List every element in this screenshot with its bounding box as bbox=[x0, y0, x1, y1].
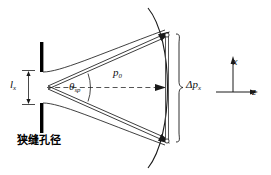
physics-diagram-beam-divergence: lx θsp p0 Δpx x z 狭缝孔径 bbox=[0, 0, 271, 175]
slit-width-dimension-arrow bbox=[22, 71, 35, 105]
slit-bar-bottom bbox=[40, 103, 43, 133]
longitudinal-momentum-label: p0 bbox=[113, 67, 122, 78]
slit-width-label: lx bbox=[10, 79, 16, 90]
diagram-canvas bbox=[0, 0, 271, 175]
beam-envelope-upper-curve bbox=[43, 30, 165, 72]
momentum-vector-lower bbox=[48, 86, 170, 144]
momentum-spread-brace bbox=[176, 34, 183, 142]
slit-bar-top bbox=[40, 42, 43, 72]
momentum-vector-center bbox=[155, 84, 166, 91]
momentum-vector-upper bbox=[48, 32, 170, 90]
divergence-angle-label: θsp bbox=[69, 81, 80, 92]
slit-aperture bbox=[40, 42, 43, 133]
transverse-momentum-spread-label: Δpx bbox=[186, 79, 201, 90]
z-axis-label: z bbox=[252, 87, 256, 97]
slit-aperture-caption: 狭缝孔径 bbox=[17, 135, 61, 146]
beam-envelope-lower-curve bbox=[43, 103, 165, 145]
x-axis-label: x bbox=[233, 57, 237, 67]
